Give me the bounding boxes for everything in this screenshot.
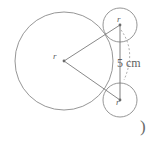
figure-canvas xyxy=(0,0,155,143)
large-circle-radius-label: r xyxy=(53,52,57,61)
bottom-circle-radius-label: r xyxy=(116,98,120,107)
top-circle-center-point xyxy=(119,24,122,27)
geometry-figure: r r r 5 cm ) xyxy=(0,0,155,143)
dashed-leader-arc xyxy=(121,30,130,80)
trailing-parenthesis: ) xyxy=(140,118,146,135)
top-circle-radius-label: r xyxy=(117,15,121,24)
radius-line-to-bottom xyxy=(64,61,120,100)
distance-label: 5 cm xyxy=(117,57,141,69)
large-circle-center-point xyxy=(63,60,66,63)
radius-line-to-top xyxy=(64,25,120,61)
